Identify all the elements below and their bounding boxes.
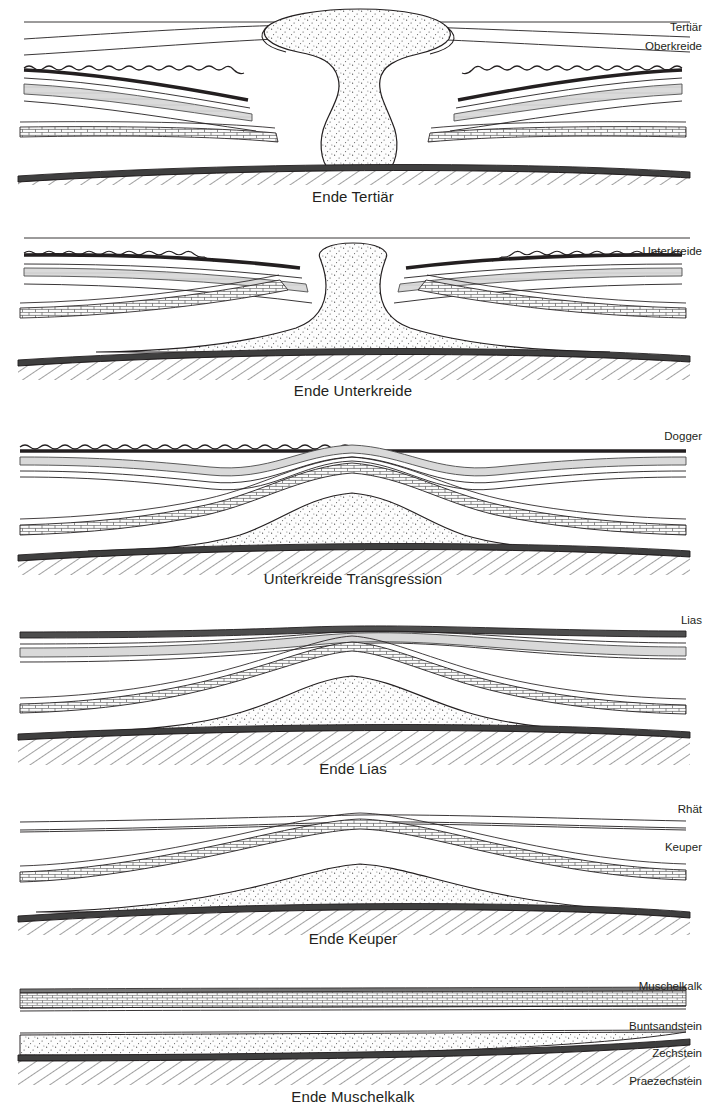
cross-section-ende-tertiaer (0, 0, 706, 185)
panel-caption-ende-lias: Ende Lias (0, 760, 706, 777)
layer-label-tertiaer: Tertiär (670, 22, 702, 34)
cross-section-ende-muschelkalk (0, 955, 706, 1085)
layer-label-praezechstein: Praezechstein (629, 1076, 702, 1088)
panel-ende-unterkreide: Unterkreide Ende Unterkreide (0, 210, 706, 405)
cross-section-unterkreide-transgression (0, 405, 706, 575)
layer-label-rhaet: Rhät (678, 804, 702, 816)
panel-caption-unterkreide-transgression: Unterkreide Transgression (0, 570, 706, 587)
layer-label-keuper: Keuper (665, 842, 702, 854)
panel-caption-ende-tertiaer: Ende Tertiär (0, 188, 706, 205)
cross-section-ende-lias (0, 600, 706, 765)
panel-caption-ende-keuper: Ende Keuper (0, 930, 706, 947)
layer-label-muschelkalk: Muschelkalk (639, 981, 702, 993)
cross-section-ende-keuper (0, 790, 706, 935)
geological-cross-section-figure: Tertiär Oberkreide Ende Tertiär (0, 0, 706, 1105)
panel-caption-ende-unterkreide: Ende Unterkreide (0, 382, 706, 399)
panel-ende-lias: Lias Ende Lias (0, 600, 706, 790)
panel-unterkreide-transgression: Dogger Unterkreide Transgression (0, 405, 706, 600)
panel-caption-ende-muschelkalk: Ende Muschelkalk (0, 1088, 706, 1105)
layer-label-unterkreide: Unterkreide (643, 246, 702, 258)
panel-ende-tertiaer: Tertiär Oberkreide Ende Tertiär (0, 0, 706, 210)
layer-label-buntsandstein: Buntsandstein (629, 1021, 702, 1033)
cross-section-ende-unterkreide (0, 210, 706, 380)
panel-ende-keuper: Rhät Keuper Ende Keuper (0, 790, 706, 955)
layer-label-oberkreide: Oberkreide (645, 41, 702, 53)
panel-ende-muschelkalk: Muschelkalk Buntsandstein Zechstein Prae… (0, 955, 706, 1105)
layer-label-lias: Lias (681, 615, 702, 627)
layer-label-zechstein: Zechstein (652, 1048, 702, 1060)
layer-label-dogger: Dogger (664, 431, 702, 443)
